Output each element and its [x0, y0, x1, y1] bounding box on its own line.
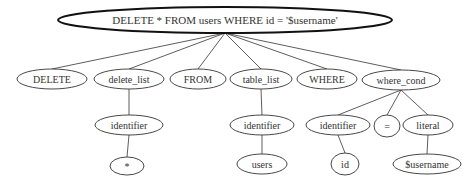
tree-node-label: literal: [416, 120, 440, 131]
tree-edge: [127, 135, 129, 157]
tree-node-label: =: [384, 121, 390, 132]
tree-node-label: DELETE: [33, 74, 71, 85]
tree-edge: [129, 33, 225, 69]
tree-edge: [401, 90, 428, 115]
parse-tree-diagram: DELETE * FROM users WHERE id = '$usernam…: [0, 0, 474, 188]
tree-edge: [427, 135, 428, 154]
tree-node-users: users: [237, 154, 287, 174]
tree-edge: [338, 135, 345, 153]
tree-node-label: table_list: [243, 74, 280, 85]
tree-node-ident2: identifier: [230, 115, 294, 135]
tree-edge: [338, 90, 401, 115]
edges-layer: [52, 33, 428, 157]
tree-node-label: where_cond: [377, 75, 426, 86]
tree-edge: [225, 33, 261, 69]
tree-node-delete-list: delete_list: [94, 69, 164, 89]
tree-edge: [387, 90, 401, 115]
tree-node-eq: =: [374, 115, 400, 137]
tree-node-label: *: [125, 161, 130, 172]
tree-edge: [261, 89, 262, 115]
tree-node-label: FROM: [184, 74, 212, 85]
tree-node-label: delete_list: [108, 74, 149, 85]
tree-node-where-cond: where_cond: [362, 70, 440, 90]
tree-node-delete: DELETE: [17, 69, 87, 89]
tree-node-label: WHERE: [309, 74, 345, 85]
tree-node-username: $username: [393, 154, 461, 174]
tree-node-from: FROM: [170, 69, 226, 89]
tree-node-literal: literal: [403, 115, 453, 135]
tree-node-label: id: [341, 159, 349, 170]
tree-node-label: $username: [405, 159, 449, 170]
tree-node-id: id: [331, 153, 359, 175]
parse-tree-canvas: DELETE * FROM users WHERE id = '$usernam…: [0, 0, 474, 188]
tree-node-ident3: identifier: [306, 115, 370, 135]
tree-node-star: *: [110, 157, 144, 175]
nodes-layer: DELETE * FROM users WHERE id = '$usernam…: [17, 7, 461, 175]
tree-edge: [52, 33, 225, 69]
tree-node-label: identifier: [244, 120, 281, 131]
root-node-label: DELETE * FROM users WHERE id = '$usernam…: [112, 14, 337, 26]
tree-node-label: users: [252, 159, 273, 170]
tree-node-ident1: identifier: [95, 115, 163, 135]
tree-node-label: identifier: [111, 120, 148, 131]
tree-node-where: WHERE: [297, 69, 357, 89]
tree-node-table-list: table_list: [230, 69, 292, 89]
tree-node-label: identifier: [320, 120, 357, 131]
root-node: DELETE * FROM users WHERE id = '$usernam…: [58, 7, 392, 33]
